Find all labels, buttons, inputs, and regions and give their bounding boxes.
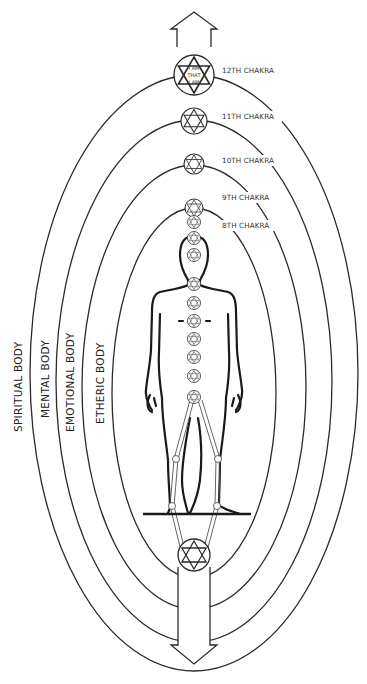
- earth-star-chakra: [178, 539, 210, 571]
- chakra-9: [185, 199, 203, 217]
- chakra-11: [181, 108, 207, 134]
- label-11th-chakra: 11TH CHAKRA: [222, 112, 274, 121]
- label-emotional-body: EMOTIONAL BODY: [64, 332, 76, 432]
- label-8th-chakra: 8TH CHAKRA: [222, 221, 269, 230]
- chakra-12-inner-text-1: I AM: [189, 65, 200, 71]
- label-mental-body: MENTAL BODY: [39, 340, 51, 418]
- body-chakras: [188, 216, 201, 404]
- chakra-12-inner-text-2: THAT: [187, 72, 202, 78]
- label-9th-chakra: 9TH CHAKRA: [222, 193, 269, 202]
- label-spiritual-body: SPIRITUAL BODY: [12, 341, 24, 432]
- label-10th-chakra: 10TH CHAKRA: [222, 156, 274, 165]
- chakra-10: [184, 154, 204, 174]
- label-12th-chakra: 12TH CHAKRA: [222, 66, 274, 75]
- chakra-12-inner-text-3: I AM: [189, 79, 200, 85]
- chakra-12: I AM THAT I AM: [174, 55, 214, 95]
- down-arrow-icon: [171, 567, 217, 664]
- up-arrow-icon: [171, 12, 217, 47]
- chakra-diagram: I AM THAT I AM: [0, 0, 367, 684]
- label-etheric-body: ETHERIC BODY: [94, 342, 106, 424]
- leg-meridians: [169, 400, 222, 555]
